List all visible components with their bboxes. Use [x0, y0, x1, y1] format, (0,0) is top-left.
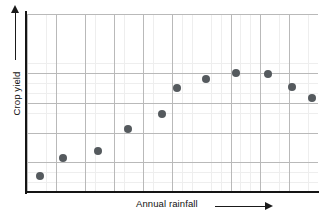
y-axis-label: Crop yield — [11, 50, 22, 138]
y-axis-arrow-icon — [11, 5, 19, 13]
data-point — [232, 69, 240, 77]
x-axis-arrow-line — [215, 206, 267, 207]
data-point — [202, 75, 210, 83]
data-point — [124, 125, 132, 133]
x-axis-arrow-icon — [265, 202, 273, 210]
scatter-plot-figure: Crop yield Annual rainfall — [0, 0, 328, 218]
data-point — [264, 70, 272, 78]
x-axis-label: Annual rainfall — [136, 198, 198, 209]
data-point — [308, 94, 316, 102]
y-axis-line — [25, 11, 27, 194]
data-point — [94, 147, 102, 155]
x-axis-annotation: Annual rainfall — [27, 196, 318, 218]
y-axis-annotation: Crop yield — [0, 0, 27, 196]
data-point — [173, 84, 181, 92]
data-point — [158, 110, 166, 118]
plot-area — [27, 14, 318, 192]
x-axis-line — [25, 191, 319, 193]
grid-major — [27, 14, 318, 192]
